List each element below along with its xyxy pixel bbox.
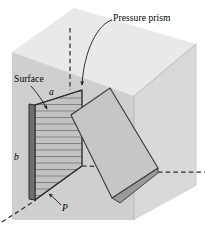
- pressure-prism-label: Pressure prism: [113, 14, 171, 24]
- figure-diagram-canvas: [0, 0, 205, 227]
- pressure-P-label: P: [62, 204, 68, 214]
- surface-dark-edge: [29, 104, 35, 200]
- dimension-b-label: b: [14, 153, 19, 163]
- surface-label: Surface: [14, 75, 44, 85]
- pressure-prism-figure: Pressure prism Surface a b P: [0, 0, 205, 227]
- dimension-a-label: a: [49, 88, 54, 98]
